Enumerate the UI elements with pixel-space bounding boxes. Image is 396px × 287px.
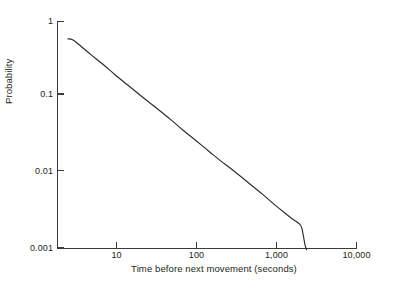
y-axis-ticks bbox=[58, 22, 65, 249]
y-tick-label-0.1: 0.1 bbox=[40, 89, 53, 99]
x-tick-label-100: 100 bbox=[189, 250, 204, 260]
y-axis-title: Probability bbox=[3, 59, 14, 104]
x-axis-title: Time before next movement (seconds) bbox=[99, 263, 297, 274]
y-tick-label-0.001: 0.001 bbox=[30, 243, 53, 253]
x-axis-title-wrapper: Time before next movement (seconds) bbox=[0, 263, 396, 274]
x-axis-ticks bbox=[117, 242, 357, 249]
y-tick-label-0.01: 0.01 bbox=[35, 166, 53, 176]
x-tick-label-1000: 1,000 bbox=[265, 250, 288, 260]
x-tick-label-10: 10 bbox=[111, 250, 121, 260]
figure-canvas: 10 100 1,000 10,000 1 0.1 0.01 0.001 Tim… bbox=[0, 0, 396, 287]
x-tick-label-10000: 10,000 bbox=[342, 250, 370, 260]
y-tick-label-1: 1 bbox=[48, 16, 53, 26]
probability-curve bbox=[68, 39, 307, 250]
log-log-plot bbox=[0, 0, 396, 287]
axes-group bbox=[57, 21, 357, 249]
